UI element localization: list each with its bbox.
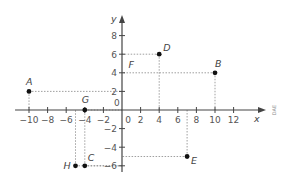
y-tick-label: 8 — [111, 31, 117, 41]
y-tick-label: 6 — [111, 50, 117, 60]
point-b-marker — [213, 70, 218, 75]
point-a-marker — [27, 89, 32, 94]
point-h-marker — [73, 163, 78, 168]
point-h-label: H — [64, 160, 71, 171]
x-axis-label: x — [253, 113, 260, 124]
y-tick-label: −4 — [104, 143, 118, 153]
coordinate-plane: xy0−10−8−6−4−22468101208642−2−4−6ABCDEGH… — [0, 0, 285, 188]
x-tick-label: −4 — [78, 115, 92, 125]
point-b-label: B — [215, 58, 222, 69]
y-tick-label: −2 — [104, 124, 117, 134]
point-g-marker — [82, 108, 87, 113]
origin-label: 0 — [114, 98, 120, 108]
coordinate-plane-diagram: xy0−10−8−6−4−22468101208642−2−4−6ABCDEGH… — [0, 0, 285, 188]
annotation-f-label: F — [129, 59, 135, 70]
x-tick-label: −6 — [60, 115, 74, 125]
y-tick-label: 4 — [111, 68, 117, 78]
x-tick-label: 10 — [209, 115, 221, 125]
x-tick-label: −8 — [41, 115, 55, 125]
point-c-label: C — [88, 152, 95, 163]
x-tick-label: −10 — [20, 115, 39, 125]
point-c-marker — [82, 163, 87, 168]
x-tick-label: 12 — [228, 115, 239, 125]
y-axis-arrow-icon — [119, 15, 125, 23]
point-a-label: A — [25, 76, 33, 87]
x-tick-label-zero: 0 — [125, 115, 131, 125]
x-tick-label: 6 — [175, 115, 181, 125]
point-d-marker — [157, 52, 162, 57]
point-g-label: G — [82, 94, 89, 105]
x-tick-label: 4 — [156, 115, 162, 125]
y-tick-label: 2 — [111, 87, 117, 97]
y-tick-label: −6 — [104, 161, 118, 171]
x-tick-label: 8 — [194, 115, 200, 125]
point-e-label: E — [191, 155, 197, 166]
credit-label: DAE — [271, 105, 277, 115]
point-e-marker — [185, 154, 190, 159]
x-tick-label: 2 — [138, 115, 144, 125]
y-axis-label: y — [110, 13, 117, 24]
point-d-label: D — [163, 42, 170, 53]
